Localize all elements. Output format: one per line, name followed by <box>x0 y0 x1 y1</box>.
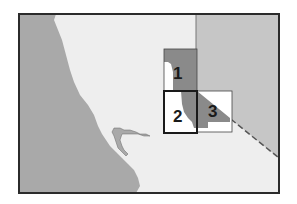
region-map: 1 3 2 <box>0 0 297 204</box>
region-box-3[interactable]: 3 <box>197 91 232 132</box>
region-label-1: 1 <box>173 64 182 83</box>
region-box-2[interactable]: 2 <box>164 91 197 133</box>
region-label-2: 2 <box>173 107 182 126</box>
region-label-3: 3 <box>208 102 217 121</box>
region-box-1[interactable]: 1 <box>164 49 197 91</box>
